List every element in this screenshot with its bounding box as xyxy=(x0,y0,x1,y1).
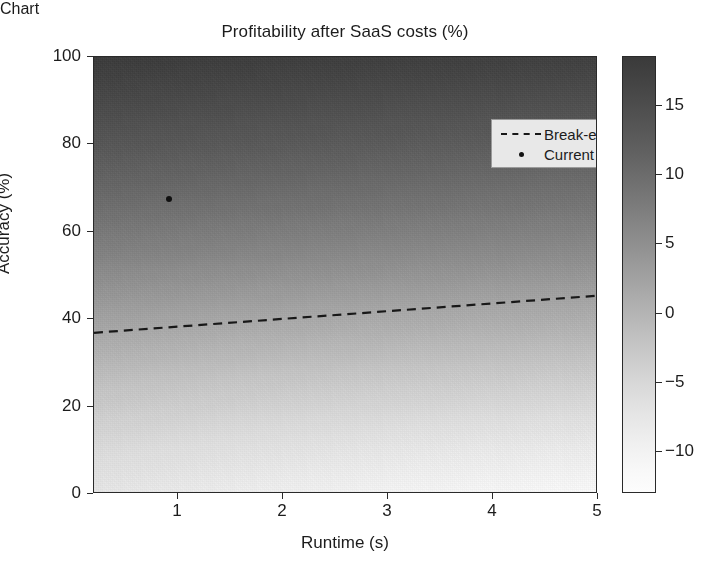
x-tick-mark xyxy=(492,493,493,499)
colorbar-tick-label-2: 5 xyxy=(665,233,674,253)
y-tick-label-1: 20 xyxy=(0,396,81,416)
x-tick-label-0: 1 xyxy=(172,501,181,521)
colorbar-tick-mark xyxy=(656,313,662,314)
y-tick-mark xyxy=(87,143,93,144)
y-tick-mark xyxy=(87,318,93,319)
colorbar-tick-mark xyxy=(656,105,662,106)
y-tick-label-5: 100 xyxy=(0,46,81,66)
colorbar-tick-mark xyxy=(656,382,662,383)
y-tick-mark xyxy=(87,231,93,232)
x-tick-label-3: 4 xyxy=(487,501,496,521)
x-axis-label: Runtime (s) xyxy=(93,533,597,553)
y-tick-label-0: 0 xyxy=(0,483,81,503)
plot-overlay xyxy=(94,57,596,492)
y-tick-label-2: 40 xyxy=(0,308,81,328)
x-tick-mark xyxy=(177,493,178,499)
colorbar-tick-mark xyxy=(656,451,662,452)
colorbar-tick-mark xyxy=(656,243,662,244)
colorbar-tick-label-3: 0 xyxy=(665,303,674,323)
x-tick-label-1: 2 xyxy=(277,501,286,521)
chart-title: Profitability after SaaS costs (%) xyxy=(93,22,597,42)
colorbar[interactable] xyxy=(622,56,656,493)
x-tick-label-4: 5 xyxy=(592,501,601,521)
y-tick-mark xyxy=(87,493,93,494)
colorbar-tick-label-4: −5 xyxy=(665,372,684,392)
colorbar-tick-mark xyxy=(656,174,662,175)
y-tick-label-4: 80 xyxy=(0,133,81,153)
y-axis-label: Accuracy (%) xyxy=(0,173,14,274)
colorbar-tick-label-5: −10 xyxy=(665,441,694,461)
x-tick-mark xyxy=(282,493,283,499)
colorbar-tick-label-0: 15 xyxy=(665,95,684,115)
colorbar-tick-label-1: 10 xyxy=(665,164,684,184)
x-tick-mark xyxy=(387,493,388,499)
figure-canvas: Profitability after SaaS costs (%) Break… xyxy=(0,0,717,579)
y-tick-mark xyxy=(87,406,93,407)
plot-area[interactable]: Break-even Current prototype xyxy=(93,56,597,493)
y-tick-mark xyxy=(87,56,93,57)
x-tick-label-2: 3 xyxy=(382,501,391,521)
x-tick-mark xyxy=(597,493,598,499)
